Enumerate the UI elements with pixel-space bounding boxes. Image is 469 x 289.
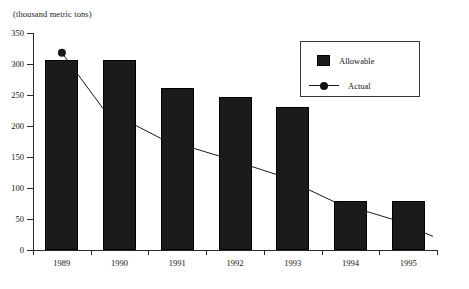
legend-square-icon [317,55,330,66]
chart-legend: Allowable Actual [300,41,420,97]
chart-figure: (thousand metric tons) 05010015020025030… [0,0,469,289]
legend-label-actual: Actual [348,81,371,91]
legend-item-actual: Actual [309,80,371,91]
legend-item-allowable: Allowable [317,55,374,66]
legend-line-dot-icon [309,80,339,91]
actual-data-marker [58,49,66,57]
legend-label-allowable: Allowable [339,56,374,66]
